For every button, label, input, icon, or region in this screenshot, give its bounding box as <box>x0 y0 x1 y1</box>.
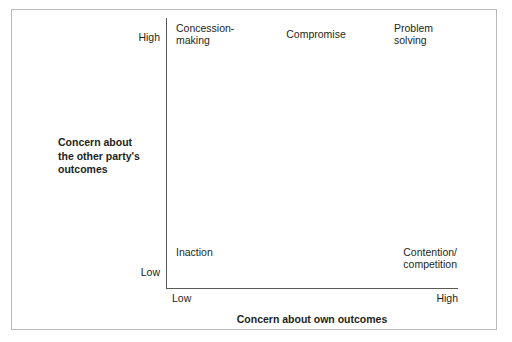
x-axis-tick-low: Low <box>172 292 242 304</box>
y-axis-title: Concern about the other party's outcomes <box>58 136 173 177</box>
x-axis-tick-high: High <box>388 292 458 304</box>
y-axis-tick-high: High <box>90 31 160 43</box>
dual-concern-model-figure: Concession- making Compromise Problem so… <box>0 0 512 342</box>
quadrant-label-contention-competition: Contention/ competition <box>337 246 457 271</box>
x-axis-line <box>166 288 458 289</box>
x-axis-title: Concern about own outcomes <box>182 313 442 325</box>
quadrant-label-problem-solving: Problem solving <box>394 22 504 47</box>
y-axis-tick-low: Low <box>90 266 160 278</box>
quadrant-label-inaction: Inaction <box>176 246 296 258</box>
quadrant-label-compromise: Compromise <box>246 28 386 40</box>
